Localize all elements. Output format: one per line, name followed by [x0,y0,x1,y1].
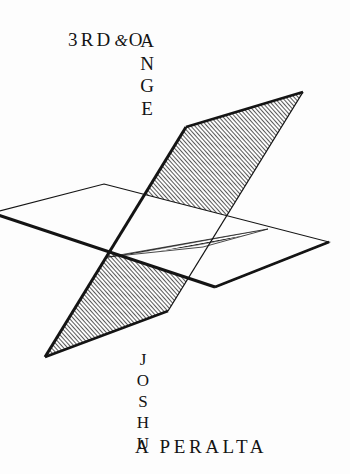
title-letter-a: A [136,30,158,53]
title-letter-g: G [136,75,158,98]
title-first-line: 3RD&O [68,30,146,49]
title-letter-e: E [136,98,158,121]
title-ampersand: & [114,31,129,50]
title-3rd: 3RD [68,29,114,50]
author-letter-o: O [132,370,154,391]
cover-artwork [0,0,350,474]
author-last-line: A PERALTA [135,437,267,456]
author-letter-h: H [132,412,154,433]
title-letter-n: N [136,53,158,76]
title-vertical-orange: R A N G E [136,30,158,120]
author-letter-j: J [132,349,154,370]
author-letter-s: S [132,391,154,412]
book-cover: 3RD&O R A N G E J O S H U A PERALTA [0,0,350,474]
